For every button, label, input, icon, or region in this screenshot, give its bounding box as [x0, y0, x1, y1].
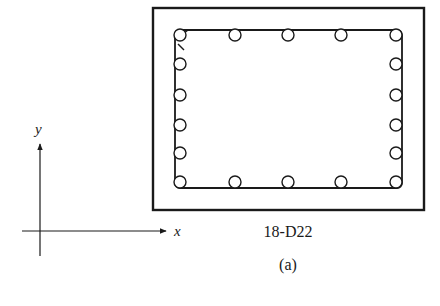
rebar-circle	[390, 176, 402, 188]
rebar-circle	[335, 176, 347, 188]
y-axis-label: y	[33, 121, 42, 137]
rebar-circle	[390, 89, 402, 101]
rebar-circle	[390, 119, 402, 131]
rebar-spec-label: 18-D22	[264, 223, 313, 240]
rebar-circle	[390, 29, 402, 41]
rebar-circle	[174, 119, 186, 131]
rebar-circle	[174, 58, 186, 70]
figure-caption: (a)	[279, 256, 297, 274]
coordinate-axes: x y	[22, 121, 181, 256]
rebar-circle	[174, 29, 186, 41]
stirrup-tie	[175, 30, 402, 188]
longitudinal-rebars	[174, 29, 402, 188]
rc-column-section-diagram: x y 18-D22 (a)	[0, 0, 440, 306]
x-axis-label: x	[173, 223, 181, 239]
rebar-circle	[229, 176, 241, 188]
column-cross-section	[153, 8, 424, 210]
rebar-circle	[390, 147, 402, 159]
rebar-circle	[282, 29, 294, 41]
rebar-circle	[174, 176, 186, 188]
rebar-circle	[390, 58, 402, 70]
rebar-circle	[229, 29, 241, 41]
rebar-circle	[174, 147, 186, 159]
rebar-circle	[282, 176, 294, 188]
rebar-circle	[335, 29, 347, 41]
rebar-circle	[174, 89, 186, 101]
